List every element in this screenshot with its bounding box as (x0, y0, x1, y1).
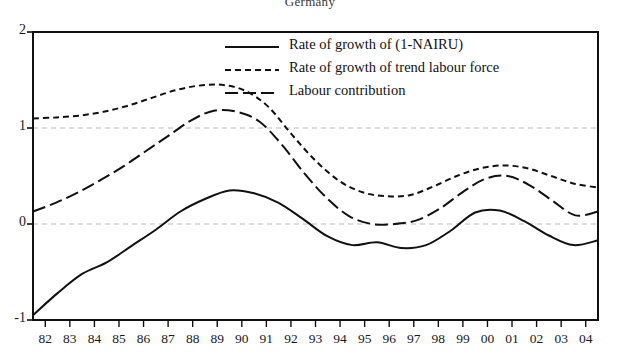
x-tick-label: 01 (501, 331, 523, 347)
x-tick-label: 92 (280, 331, 302, 347)
legend-label: Labour contribution (289, 83, 405, 98)
x-tick-label: 86 (133, 331, 155, 347)
data-series (33, 84, 598, 315)
x-tick-label: 04 (575, 331, 597, 347)
x-tick-label: 84 (83, 331, 105, 347)
x-tick-label: 00 (476, 331, 498, 347)
x-tick-label: 93 (305, 331, 327, 347)
x-tick-label: 96 (378, 331, 400, 347)
x-tick-label: 88 (182, 331, 204, 347)
legend-label: Rate of growth of (1-NAIRU) (289, 37, 463, 52)
legend-swatch-dashed (224, 62, 280, 74)
legend-swatch-dash-dot (224, 85, 280, 97)
x-tick-label: 02 (526, 331, 548, 347)
legend-swatch-solid (224, 39, 280, 51)
x-tick-label: 03 (550, 331, 572, 347)
x-tick-label: 97 (403, 331, 425, 347)
x-tick-label: 90 (231, 331, 253, 347)
x-tick-label: 95 (354, 331, 376, 347)
x-tick-label: 94 (329, 331, 351, 347)
y-tick-label: 0 (4, 214, 26, 230)
legend-item[interactable]: Rate of growth of trend labour force (224, 56, 554, 79)
legend-label: Rate of growth of trend labour force (289, 60, 499, 75)
y-tick-label: 2 (4, 22, 26, 38)
x-tick-label: 91 (255, 331, 277, 347)
x-tick-label: 82 (34, 331, 56, 347)
y-tick-label: -1 (4, 310, 26, 326)
x-tick-label: 85 (108, 331, 130, 347)
x-tick-label: 83 (59, 331, 81, 347)
series-line (33, 110, 598, 225)
x-tick-label: 98 (427, 331, 449, 347)
x-tick-label: 99 (452, 331, 474, 347)
x-tick-label: 87 (157, 331, 179, 347)
x-axis-ticks (45, 320, 585, 327)
chart-legend: Rate of growth of (1-NAIRU)Rate of growt… (224, 33, 554, 102)
chart-container: Germany -1012 82838485868788899091929394… (0, 0, 620, 364)
legend-item[interactable]: Labour contribution (224, 79, 554, 102)
x-tick-label: 89 (206, 331, 228, 347)
y-tick-label: 1 (4, 118, 26, 134)
legend-item[interactable]: Rate of growth of (1-NAIRU) (224, 33, 554, 56)
gridlines (33, 128, 598, 224)
series-line (33, 190, 598, 315)
